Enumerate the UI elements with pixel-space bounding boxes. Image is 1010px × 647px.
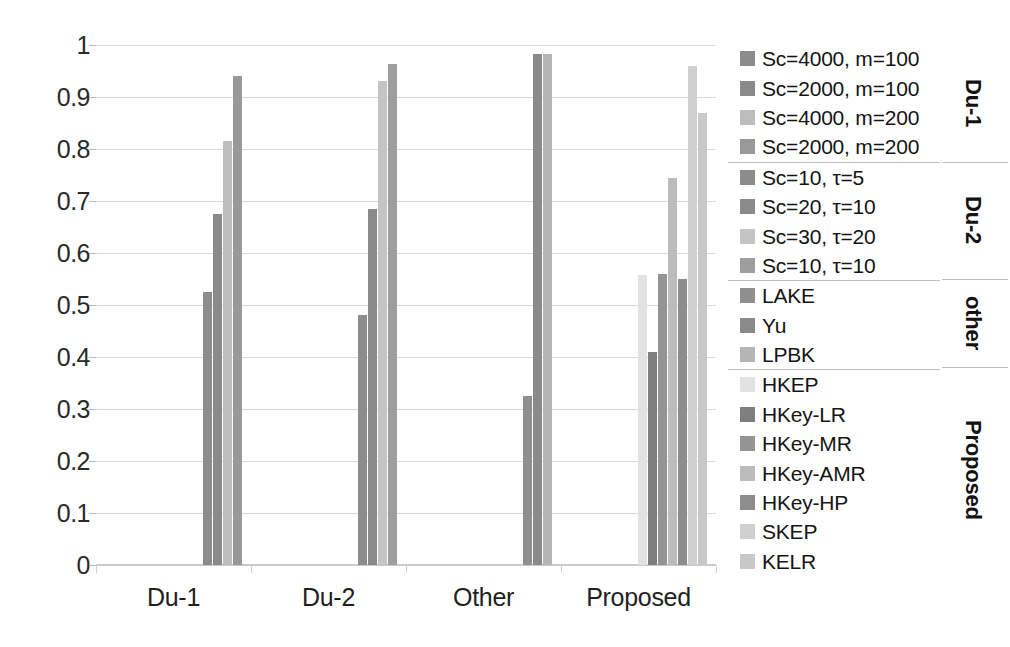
legend-item[interactable]: Sc=4000, m=100 xyxy=(728,44,940,73)
x-tick-label-other: Other xyxy=(453,585,514,610)
legend-item[interactable]: SKEP xyxy=(728,517,940,546)
legend-swatch-icon xyxy=(740,170,755,185)
x-axis-tickmark xyxy=(716,565,717,573)
bar xyxy=(658,274,667,565)
bar xyxy=(688,66,697,565)
bar xyxy=(698,113,707,565)
legend-item[interactable]: Sc=30, τ=20 xyxy=(728,221,940,250)
legend-item[interactable]: Sc=4000, m=200 xyxy=(728,103,940,132)
legend-item[interactable]: LPBK xyxy=(728,340,940,369)
legend-item[interactable]: LAKE xyxy=(728,281,940,310)
legend-swatch-icon xyxy=(740,258,755,273)
legend-item[interactable]: Sc=2000, m=100 xyxy=(728,73,940,102)
bar xyxy=(533,54,542,565)
bar-group-du-1 xyxy=(203,45,243,565)
x-tick-label-proposed: Proposed xyxy=(586,585,691,610)
legend-item-label: Sc=4000, m=100 xyxy=(762,48,919,69)
legend-item[interactable]: Sc=10, τ=10 xyxy=(728,251,940,280)
legend-swatch-icon xyxy=(740,110,755,125)
y-tick-label: 0.6 xyxy=(57,241,90,266)
bar xyxy=(368,209,377,565)
x-tick-label-du-1: Du-1 xyxy=(147,585,200,610)
y-tick-label: 0.2 xyxy=(57,449,90,474)
x-axis-tick-labels: Du-1Du-2OtherProposed xyxy=(96,585,716,625)
bar-group-du-2 xyxy=(358,45,398,565)
y-axis-tickmark xyxy=(89,201,96,202)
plot-area: 00.10.20.30.40.50.60.70.80.91 Du-1Du-2Ot… xyxy=(0,0,730,647)
legend-item-label: KELR xyxy=(762,551,816,572)
legend-swatch-icon xyxy=(740,51,755,66)
x-axis-tickmark xyxy=(406,565,407,573)
y-axis-tickmark xyxy=(89,305,96,306)
legend-swatch-icon xyxy=(740,318,755,333)
y-axis-tickmark xyxy=(89,461,96,462)
y-tick-label: 0.9 xyxy=(57,85,90,110)
bar xyxy=(203,292,212,565)
bar xyxy=(668,178,677,565)
legend-block-other: LAKEYuLPBK xyxy=(728,280,940,369)
legend-item-label: Sc=2000, m=100 xyxy=(762,78,919,99)
legend-category-label: Du-1 xyxy=(960,79,986,127)
x-axis-tickmark xyxy=(561,565,562,573)
bars-container xyxy=(96,45,716,565)
legend-item-label: Sc=10, τ=10 xyxy=(762,255,876,276)
y-axis-tickmark xyxy=(89,253,96,254)
x-axis-tickmark xyxy=(251,565,252,573)
legend-item-label: Sc=30, τ=20 xyxy=(762,226,876,247)
legend-item-label: LAKE xyxy=(762,285,815,306)
legend-category-du-2: Du-2 xyxy=(942,162,1004,280)
bar-group-other xyxy=(523,45,553,565)
legend-swatch-icon xyxy=(740,288,755,303)
legend-item-label: Sc=4000, m=200 xyxy=(762,107,919,128)
legend-item[interactable]: Sc=2000, m=200 xyxy=(728,132,940,161)
legend-category-label: Proposed xyxy=(960,420,986,520)
legend-category-label: Du-2 xyxy=(960,196,986,244)
legend-item[interactable]: HKey-MR xyxy=(728,429,940,458)
legend-item-label: LPBK xyxy=(762,344,815,365)
legend-item-label: HKey-LR xyxy=(762,404,846,425)
legend-category-labels: Du-1Du-2otherProposed xyxy=(942,44,1008,574)
legend-swatch-icon xyxy=(740,377,755,392)
legend-item[interactable]: HKey-HP xyxy=(728,488,940,517)
legend-swatch-icon xyxy=(740,554,755,569)
bar xyxy=(378,81,387,565)
legend-item[interactable]: Yu xyxy=(728,311,940,340)
legend-item[interactable]: Sc=20, τ=10 xyxy=(728,192,940,221)
bar xyxy=(358,315,367,565)
y-axis-tickmark xyxy=(89,409,96,410)
y-axis-tickmark xyxy=(89,565,96,566)
bar-group-proposed xyxy=(638,45,708,565)
y-tick-label: 0.3 xyxy=(57,397,90,422)
legend-item-label: Sc=20, τ=10 xyxy=(762,196,876,217)
legend-item[interactable]: HKEP xyxy=(728,370,940,399)
bar-chart: 00.10.20.30.40.50.60.70.80.91 Du-1Du-2Ot… xyxy=(0,0,1010,647)
legend-item-label: SKEP xyxy=(762,521,817,542)
legend-block-du-1: Sc=4000, m=100Sc=2000, m=100Sc=4000, m=2… xyxy=(728,44,940,162)
y-axis-tickmark xyxy=(89,513,96,514)
legend-category-label: other xyxy=(960,296,986,350)
bar xyxy=(213,214,222,565)
legend-category-other: other xyxy=(942,279,1004,367)
y-axis-tickmark xyxy=(89,45,96,46)
legend-item[interactable]: HKey-AMR xyxy=(728,458,940,487)
legend-swatch-icon xyxy=(740,436,755,451)
y-axis-tickmark xyxy=(89,357,96,358)
legend-item[interactable]: KELR xyxy=(728,547,940,576)
legend-item-label: HKEP xyxy=(762,374,818,395)
bar xyxy=(638,275,647,565)
legend-item[interactable]: Sc=10, τ=5 xyxy=(728,163,940,192)
legend-block-du-2: Sc=10, τ=5Sc=20, τ=10Sc=30, τ=20Sc=10, τ… xyxy=(728,162,940,281)
bar xyxy=(648,352,657,565)
y-tick-label: 0.4 xyxy=(57,345,90,370)
legend-item[interactable]: HKey-LR xyxy=(728,400,940,429)
legend-item-label: Sc=10, τ=5 xyxy=(762,167,864,188)
y-axis-tick-labels: 00.10.20.30.40.50.60.70.80.91 xyxy=(28,30,90,586)
legend-items: Sc=4000, m=100Sc=2000, m=100Sc=4000, m=2… xyxy=(728,44,940,576)
x-tick-label-du-2: Du-2 xyxy=(302,585,355,610)
bar xyxy=(543,54,552,565)
y-tick-label: 0.1 xyxy=(57,501,90,526)
legend-category-du-1: Du-1 xyxy=(942,44,1004,162)
bar xyxy=(223,141,232,565)
y-tick-label: 1 xyxy=(77,33,90,58)
bar xyxy=(388,64,397,565)
